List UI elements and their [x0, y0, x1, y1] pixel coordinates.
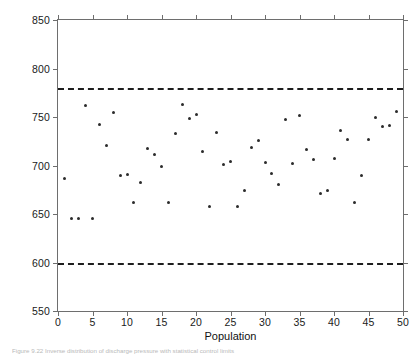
y-axis-tick-label: 550	[32, 305, 50, 317]
y-axis-tick-label: 750	[32, 111, 50, 123]
data-point	[84, 104, 87, 107]
x-axis-tick-top	[162, 15, 163, 20]
x-axis-tick-label: 30	[259, 316, 271, 328]
x-axis-tick-top	[58, 15, 59, 20]
data-point	[367, 138, 370, 141]
data-surface	[58, 20, 403, 311]
data-point	[388, 124, 391, 127]
data-point	[201, 150, 204, 153]
data-point	[229, 160, 232, 163]
data-point	[374, 116, 377, 119]
data-point	[381, 125, 384, 128]
x-axis-tick-top	[300, 15, 301, 20]
y-axis-tick-right	[403, 69, 408, 70]
data-point	[167, 201, 170, 204]
x-axis-tick-top	[196, 15, 197, 20]
y-axis-tick	[53, 69, 58, 70]
data-point	[257, 139, 260, 142]
data-point	[215, 131, 218, 134]
x-axis-tick-top	[93, 15, 94, 20]
figure-caption: Figure 9.22 Inverse distribution of disc…	[12, 347, 412, 355]
data-point	[277, 183, 280, 186]
y-axis-tick-right	[403, 214, 408, 215]
upper-control-limit	[58, 88, 403, 90]
data-point	[174, 132, 177, 135]
y-axis-tick-label: 600	[32, 257, 50, 269]
data-point	[98, 123, 101, 126]
data-point	[298, 114, 301, 117]
scatter-plot: Discharge pressure (kPa) 550600650700750…	[0, 0, 420, 330]
data-point	[119, 174, 122, 177]
y-axis-tick-right	[403, 20, 408, 21]
x-axis-tick-label: 45	[362, 316, 374, 328]
data-point	[353, 201, 356, 204]
data-point	[105, 144, 108, 147]
x-axis-tick-label: 25	[224, 316, 236, 328]
x-axis-tick-label: 20	[190, 316, 202, 328]
data-point	[264, 161, 267, 164]
data-point	[91, 217, 94, 220]
data-point	[195, 113, 198, 116]
y-axis-tick	[53, 263, 58, 264]
data-point	[188, 117, 191, 120]
x-axis-tick-top	[265, 15, 266, 20]
data-point	[146, 147, 149, 150]
figure-container: Discharge pressure (kPa) 550600650700750…	[0, 0, 420, 356]
x-axis-tick-label: 10	[121, 316, 133, 328]
data-point	[346, 138, 349, 141]
data-point	[291, 162, 294, 165]
data-point	[132, 201, 135, 204]
x-axis-tick-top	[334, 15, 335, 20]
data-point	[250, 146, 253, 149]
y-axis-tick-label: 800	[32, 63, 50, 75]
lower-control-limit	[58, 263, 403, 265]
data-point	[112, 111, 115, 114]
y-axis-tick	[53, 117, 58, 118]
x-axis-tick-label: 50	[397, 316, 409, 328]
data-point	[326, 189, 329, 192]
axes-box: 5506006507007508008500510152025303540455…	[57, 19, 404, 312]
data-point	[63, 177, 66, 180]
y-axis-tick-label: 700	[32, 160, 50, 172]
data-point	[236, 205, 239, 208]
data-point	[339, 129, 342, 132]
y-axis-tick-right	[403, 166, 408, 167]
data-point	[319, 192, 322, 195]
x-axis-tick-top	[231, 15, 232, 20]
x-axis-tick-label: 15	[155, 316, 167, 328]
data-point	[360, 174, 363, 177]
x-axis-tick-top	[369, 15, 370, 20]
data-point	[160, 165, 163, 168]
y-axis-tick	[53, 20, 58, 21]
x-axis-label: Population	[57, 330, 404, 342]
x-axis-tick-top	[127, 15, 128, 20]
y-axis-tick-label: 850	[32, 14, 50, 26]
data-point	[181, 103, 184, 106]
data-point	[270, 172, 273, 175]
x-axis-tick-label: 40	[328, 316, 340, 328]
data-point	[126, 173, 129, 176]
data-point	[208, 205, 211, 208]
data-point	[153, 153, 156, 156]
x-axis-tick-label: 35	[293, 316, 305, 328]
x-axis-tick-top	[403, 15, 404, 20]
data-point	[70, 217, 73, 220]
data-point	[333, 157, 336, 160]
x-axis-tick-label: 0	[55, 316, 61, 328]
y-axis-tick-right	[403, 263, 408, 264]
y-axis-tick-right	[403, 117, 408, 118]
data-point	[312, 158, 315, 161]
data-point	[243, 189, 246, 192]
y-axis-tick	[53, 214, 58, 215]
y-axis-tick-label: 650	[32, 208, 50, 220]
data-point	[305, 148, 308, 151]
data-point	[139, 181, 142, 184]
x-axis-tick-label: 5	[89, 316, 95, 328]
data-point	[395, 110, 398, 113]
data-point	[222, 163, 225, 166]
y-axis-tick	[53, 166, 58, 167]
data-point	[284, 118, 287, 121]
data-point	[77, 217, 80, 220]
